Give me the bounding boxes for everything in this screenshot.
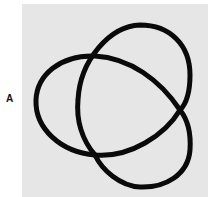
trefoil-knot: [0, 0, 208, 197]
knot-strand-top-lobe: [78, 25, 190, 155]
knot-strand-left-lobe: [36, 56, 180, 155]
knot-strand-bottom-lobe: [95, 110, 190, 187]
